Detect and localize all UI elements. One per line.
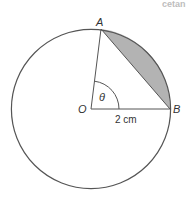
circle-diagram: cetan A O B θ 2 cm xyxy=(0,0,190,199)
angle-theta-label: θ xyxy=(99,91,105,103)
cropped-header-text: cetan xyxy=(162,0,186,9)
point-b-label: B xyxy=(173,103,180,115)
radius-length-label: 2 cm xyxy=(115,114,137,125)
point-o-label: O xyxy=(78,103,87,115)
point-a-label: A xyxy=(95,16,103,28)
